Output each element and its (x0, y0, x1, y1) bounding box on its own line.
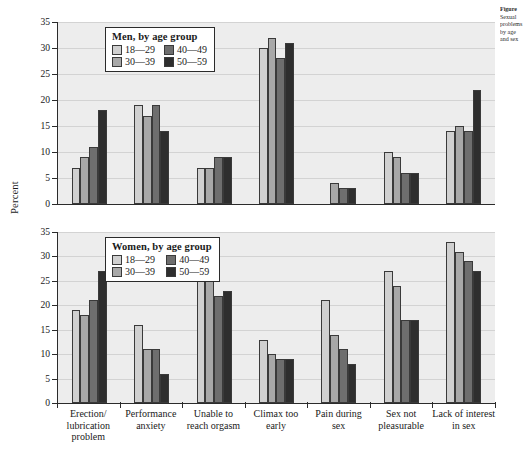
legend-title-women: Women, by age group (112, 241, 212, 252)
bar (410, 173, 419, 204)
legend-item-label: 18—29 (125, 44, 155, 55)
legend-women: Women, by age group 18—2940—4930—3950—59 (105, 237, 220, 282)
bar-group (384, 232, 419, 403)
legend-item: 40—49 (164, 44, 207, 55)
side-caption: Figure Sexual problems by age and sex (500, 6, 524, 44)
y-axis-tick-label: 15 (22, 121, 50, 131)
bar (339, 188, 348, 204)
y-axis-tick (52, 126, 58, 127)
legend-item: 30—39 (112, 266, 157, 277)
y-axis-tick (52, 379, 58, 380)
y-axis-tick (52, 74, 58, 75)
side-caption-line-1: Figure (500, 6, 524, 14)
legend-item-label: 40—49 (179, 254, 209, 265)
legend-swatch-icon (112, 267, 122, 277)
x-axis-tick (57, 402, 58, 408)
bar (285, 359, 294, 403)
bar (268, 354, 277, 403)
legend-item-label: 30—39 (125, 56, 155, 67)
bar (143, 116, 152, 204)
bar (384, 152, 393, 204)
bar (401, 320, 410, 403)
panel-men: 05101520253035 Men, by age group 18—2940… (57, 22, 495, 205)
bar (384, 271, 393, 403)
legend-item-label: 40—49 (177, 44, 207, 55)
y-axis-tick (52, 330, 58, 331)
bar (152, 349, 161, 403)
bar (72, 168, 81, 204)
x-axis-tick (307, 402, 308, 408)
figure-chart-sexual-problems: Percent 05101520253035 Men, by age group… (0, 0, 524, 468)
x-axis-tick (432, 402, 433, 408)
legend-item-label: 30—39 (125, 266, 155, 277)
y-axis-tick-label: 10 (22, 147, 50, 157)
bar (214, 296, 223, 403)
bar (214, 157, 223, 204)
bar (98, 110, 107, 204)
bar (259, 48, 268, 204)
bar-group (384, 22, 419, 204)
x-axis-tick (370, 402, 371, 408)
legend-swatch-icon (164, 57, 174, 67)
legend-men: Men, by age group 18—2940—4930—3950—59 (105, 27, 215, 72)
y-axis-tick (52, 22, 58, 23)
y-axis-tick (52, 48, 58, 49)
bar (473, 90, 482, 204)
bar (197, 168, 206, 204)
bar (134, 325, 143, 403)
bar (205, 276, 214, 403)
bar (160, 131, 169, 204)
y-axis-tick (52, 232, 58, 233)
bar (80, 315, 89, 403)
bar (259, 340, 268, 404)
y-axis-tick-label: 30 (22, 43, 50, 53)
bar (152, 105, 161, 204)
y-axis-tick (52, 305, 58, 306)
bar (393, 157, 402, 204)
bar (348, 188, 357, 204)
legend-item-label: 18—29 (125, 254, 155, 265)
y-axis-tick (52, 152, 58, 153)
bar (455, 252, 464, 403)
x-axis-tick (182, 402, 183, 408)
bar (446, 242, 455, 403)
bar (330, 183, 339, 204)
legend-swatch-icon (112, 45, 122, 55)
y-axis-tick-label: 35 (22, 227, 50, 237)
bar (276, 359, 285, 403)
bar (72, 310, 81, 403)
y-axis-tick (52, 256, 58, 257)
bar (473, 271, 482, 403)
x-axis-tick (495, 402, 496, 408)
side-caption-line-4: by age (500, 29, 524, 37)
y-axis-tick-label: 10 (22, 349, 50, 359)
bar (80, 157, 89, 204)
bar-group (259, 22, 294, 204)
y-axis-title: Percent (9, 158, 20, 238)
y-axis-tick-label: 5 (22, 173, 50, 183)
y-axis-tick-label: 20 (22, 95, 50, 105)
bar (276, 58, 285, 204)
x-axis-label: Lack of interest in sex (419, 408, 509, 431)
bar (393, 286, 402, 403)
y-axis-tick-label: 35 (22, 17, 50, 27)
bar-group (321, 22, 356, 204)
bar (143, 349, 152, 403)
legend-entries-men: 18—2940—4930—3950—59 (112, 44, 207, 67)
bar-group (259, 232, 294, 403)
legend-title-men: Men, by age group (112, 31, 207, 42)
bar (401, 173, 410, 204)
y-axis-tick (52, 178, 58, 179)
legend-item-label: 50—59 (179, 266, 209, 277)
x-axis-tick (245, 402, 246, 408)
legend-item: 40—49 (166, 254, 211, 265)
bar (455, 126, 464, 204)
bar-group (446, 22, 481, 204)
side-caption-line-5: and sex (500, 36, 524, 44)
bar-group (72, 22, 107, 204)
y-axis-tick-label: 20 (22, 300, 50, 310)
y-axis-tick (52, 354, 58, 355)
bar (160, 374, 169, 403)
bar (348, 364, 357, 403)
bar (223, 291, 232, 403)
